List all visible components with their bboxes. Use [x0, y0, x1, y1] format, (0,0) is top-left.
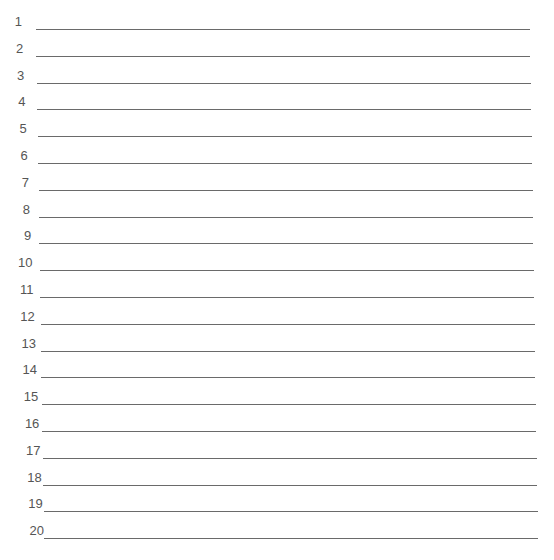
blank-entry-line[interactable]	[41, 351, 535, 352]
row-number: 1	[0, 15, 22, 29]
row-number: 8	[8, 203, 30, 217]
row-number: 12	[13, 310, 35, 324]
blank-entry-line[interactable]	[43, 458, 537, 459]
form-row: 20	[0, 522, 554, 542]
row-number: 7	[7, 176, 29, 190]
form-row: 19	[0, 495, 554, 515]
form-row: 12	[0, 308, 554, 328]
form-row: 14	[0, 361, 554, 381]
blank-entry-line[interactable]	[41, 324, 535, 325]
form-row: 10	[0, 254, 554, 274]
blank-entry-line[interactable]	[44, 538, 538, 539]
form-row: 15	[0, 388, 554, 408]
blank-entry-line[interactable]	[39, 243, 533, 244]
blank-entry-line[interactable]	[40, 270, 534, 271]
row-number: 9	[9, 229, 31, 243]
form-row: 3	[0, 67, 554, 87]
form-row: 2	[0, 40, 554, 60]
form-row: 1	[0, 13, 554, 33]
blank-entry-line[interactable]	[43, 485, 537, 486]
form-row: 8	[0, 201, 554, 221]
row-number: 15	[16, 390, 38, 404]
blank-entry-line[interactable]	[36, 56, 530, 57]
blank-entry-line[interactable]	[44, 511, 538, 512]
blank-entry-line[interactable]	[39, 190, 533, 191]
form-row: 18	[0, 469, 554, 489]
row-number: 17	[19, 444, 41, 458]
blank-entry-line[interactable]	[38, 163, 532, 164]
row-number: 14	[15, 363, 37, 377]
form-row: 7	[0, 174, 554, 194]
row-number: 4	[3, 95, 25, 109]
row-number: 13	[14, 337, 36, 351]
blank-entry-line[interactable]	[36, 29, 530, 30]
row-number: 5	[5, 122, 27, 136]
blank-entry-line[interactable]	[41, 377, 535, 378]
row-number: 2	[1, 42, 23, 56]
row-number: 6	[6, 149, 28, 163]
blank-entry-line[interactable]	[37, 109, 531, 110]
blank-entry-line[interactable]	[37, 83, 531, 84]
blank-entry-line[interactable]	[38, 136, 532, 137]
form-row: 17	[0, 442, 554, 462]
form-row: 11	[0, 281, 554, 301]
form-row: 6	[0, 147, 554, 167]
row-number: 16	[17, 417, 39, 431]
row-number: 11	[12, 283, 34, 297]
row-number: 3	[2, 69, 24, 83]
row-number: 19	[21, 497, 43, 511]
blank-entry-line[interactable]	[39, 217, 533, 218]
form-row: 9	[0, 227, 554, 247]
row-number: 10	[10, 256, 32, 270]
blank-entry-line[interactable]	[42, 431, 536, 432]
form-row: 4	[0, 93, 554, 113]
row-number: 20	[22, 524, 44, 538]
row-number: 18	[20, 471, 42, 485]
form-row: 13	[0, 335, 554, 355]
blank-entry-line[interactable]	[40, 297, 534, 298]
form-row: 16	[0, 415, 554, 435]
blank-entry-line[interactable]	[42, 404, 536, 405]
form-row: 5	[0, 120, 554, 140]
